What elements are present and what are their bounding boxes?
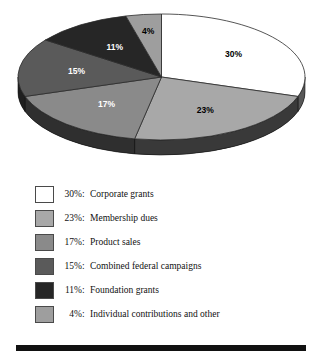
- legend-color-swatch: [35, 186, 54, 203]
- pie-slice-label: 23%: [197, 105, 214, 115]
- legend-color-swatch: [35, 234, 54, 251]
- legend-percent: 23%: [58, 213, 82, 223]
- legend-category-name: Product sales: [90, 237, 140, 247]
- pie-slice-label: 17%: [98, 99, 115, 109]
- legend-percent: 4%: [58, 309, 82, 319]
- legend-category-name: Foundation grants: [90, 285, 159, 295]
- legend-category-name: Membership dues: [90, 213, 158, 223]
- legend-label: 23%:Membership dues: [58, 213, 158, 223]
- legend-swatch-cell: [0, 282, 58, 299]
- legend-color-swatch: [35, 210, 54, 227]
- chart-legend: 30%:Corporate grants23%:Membership dues1…: [0, 182, 322, 326]
- legend-colon: :: [82, 237, 90, 247]
- bottom-divider-rule: [16, 345, 306, 351]
- legend-percent: 30%: [58, 189, 82, 199]
- legend-swatch-cell: [0, 306, 58, 323]
- legend-row[interactable]: 17%:Product sales: [0, 230, 322, 254]
- legend-label: 4%:Individual contributions and other: [58, 309, 220, 319]
- legend-swatch-cell: [0, 258, 58, 275]
- legend-color-swatch: [35, 306, 54, 323]
- legend-percent: 15%: [58, 261, 82, 271]
- legend-category-name: Individual contributions and other: [90, 309, 220, 319]
- legend-percent: 11%: [58, 285, 82, 295]
- legend-label: 17%:Product sales: [58, 237, 140, 247]
- legend-colon: :: [82, 213, 90, 223]
- pie-chart-svg: 30%23%17%15%11%4%: [0, 0, 322, 168]
- legend-row[interactable]: 15%:Combined federal campaigns: [0, 254, 322, 278]
- pie-slice-label: 30%: [225, 49, 242, 59]
- legend-row[interactable]: 30%:Corporate grants: [0, 182, 322, 206]
- legend-row[interactable]: 4%:Individual contributions and other: [0, 302, 322, 326]
- legend-row[interactable]: 11%:Foundation grants: [0, 278, 322, 302]
- pie-slice-label: 4%: [142, 26, 155, 36]
- legend-colon: :: [82, 285, 90, 295]
- pie-slices-group: [18, 14, 305, 155]
- legend-category-name: Combined federal campaigns: [90, 261, 201, 271]
- legend-category-name: Corporate grants: [90, 189, 154, 199]
- legend-swatch-cell: [0, 186, 58, 203]
- legend-swatch-cell: [0, 210, 58, 227]
- pie-chart-figure: 30%23%17%15%11%4% 30%:Corporate grants23…: [0, 0, 322, 357]
- legend-row[interactable]: 23%:Membership dues: [0, 206, 322, 230]
- legend-percent: 17%: [58, 237, 82, 247]
- legend-colon: :: [82, 189, 90, 199]
- legend-label: 30%:Corporate grants: [58, 189, 154, 199]
- legend-colon: :: [82, 309, 90, 319]
- pie-chart-plot: 30%23%17%15%11%4%: [0, 0, 322, 168]
- legend-colon: :: [82, 261, 90, 271]
- legend-color-swatch: [35, 282, 54, 299]
- pie-slice-label: 15%: [68, 66, 85, 76]
- pie-slice-label: 11%: [106, 42, 123, 52]
- legend-label: 11%:Foundation grants: [58, 285, 159, 295]
- legend-label: 15%:Combined federal campaigns: [58, 261, 201, 271]
- legend-color-swatch: [35, 258, 54, 275]
- legend-swatch-cell: [0, 234, 58, 251]
